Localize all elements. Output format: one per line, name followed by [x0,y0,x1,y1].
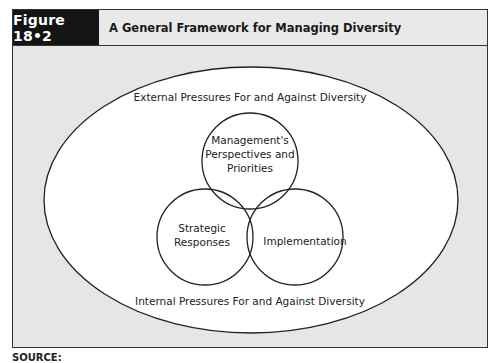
management-line-3: Priorities [200,161,300,175]
internal-pressures-label: Internal Pressures For and Against Diver… [90,294,410,308]
management-line-2: Perspectives and [200,147,300,161]
source-note: SOURCE: [12,352,62,363]
management-line-1: Management's [200,133,300,147]
implementation-label: Implementation [255,234,355,248]
strategic-label: Strategic Responses [162,221,242,249]
strategic-line-1: Strategic [162,221,242,235]
management-label: Management's Perspectives and Priorities [200,133,300,175]
implementation-line-1: Implementation [255,234,355,248]
external-pressures-label: External Pressures For and Against Diver… [100,90,400,104]
strategic-line-2: Responses [162,235,242,249]
